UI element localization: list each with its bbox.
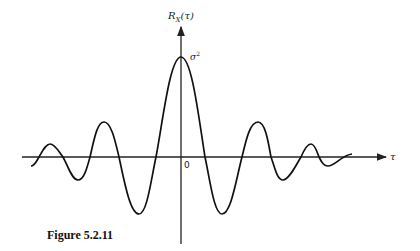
y-axis-label: RX(τ)	[168, 10, 194, 24]
autocorrelation-figure	[0, 0, 420, 251]
origin-label: 0	[184, 160, 190, 170]
x-axis-label: τ	[390, 151, 396, 162]
peak-label: σ2	[190, 50, 200, 62]
figure-caption: Figure 5.2.11	[47, 228, 113, 243]
autocorrelation-curve	[31, 57, 352, 214]
